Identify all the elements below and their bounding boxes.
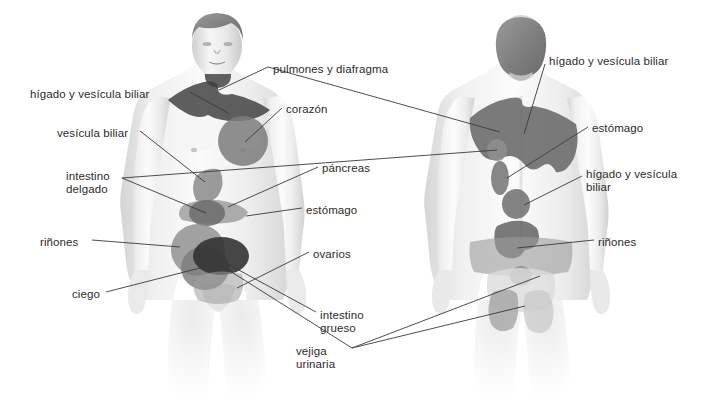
label-vejiga-urinaria: vejiga urinaria [296, 345, 335, 371]
label-intestino-delgado: intestino delgado [66, 170, 110, 196]
zone-front-ovarios [193, 271, 243, 304]
label-pulmones-diafragma: pulmones y diafragma [273, 63, 388, 76]
label-ciego: ciego [72, 288, 100, 301]
label-pancreas: páncreas [322, 162, 370, 175]
zone-back-gluteo-der [524, 290, 554, 333]
label-corazon: corazón [286, 103, 328, 116]
zone-back-estomago [491, 161, 509, 195]
label-rinones-front: riñones [40, 236, 78, 249]
zone-front-intestino-grueso [193, 237, 249, 275]
referred-pain-diagram: hígado y vesícula biliar vesícula biliar… [0, 0, 714, 396]
label-ovarios: ovarios [313, 248, 351, 261]
label-intestino-grueso: intestino grueso [320, 309, 364, 335]
label-higado-vesicula-back-mid: hígado y vesícula biliar [586, 168, 677, 194]
zone-back-gluteo-izq [488, 289, 518, 331]
label-higado-vesicula-back-top: hígado y vesícula biliar [549, 55, 668, 68]
back-body-group [424, 15, 610, 396]
label-higado-vesicula-front: hígado y vesícula biliar [30, 88, 149, 101]
zone-front-corazon [218, 116, 268, 166]
zone-front-intestino-delgado [189, 200, 225, 226]
label-vesicula-biliar-front: vesícula biliar [57, 127, 128, 140]
label-estomago-front: estómago [306, 204, 357, 217]
label-rinones-back: riñones [598, 236, 636, 249]
label-estomago-back: estómago [592, 122, 643, 135]
